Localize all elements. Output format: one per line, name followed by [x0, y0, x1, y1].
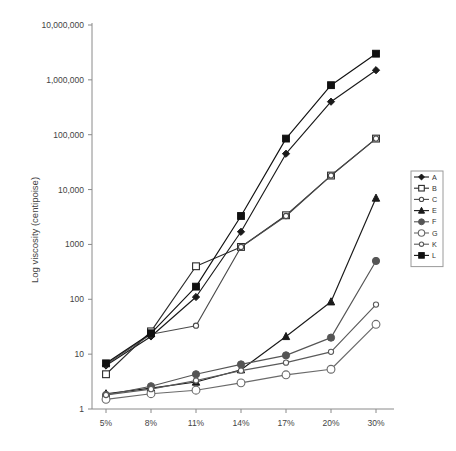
y-axis: 110100100010,000100,0001,000,00010,000,0…: [41, 20, 92, 414]
data-point-marker: [282, 371, 290, 379]
data-point-marker: [282, 332, 289, 339]
data-point-marker: [328, 349, 333, 354]
data-point-marker: [193, 283, 200, 290]
data-point-marker: [328, 82, 335, 89]
data-point-marker: [419, 197, 423, 201]
data-point-marker: [373, 50, 380, 57]
data-point-marker: [372, 257, 379, 264]
x-tick-label: 20%: [322, 418, 339, 428]
data-point-marker: [283, 135, 290, 142]
y-tick-label: 100: [70, 294, 84, 304]
data-point-marker: [419, 253, 425, 259]
x-tick-label: 11%: [188, 418, 205, 428]
data-point-marker: [419, 242, 423, 246]
series-line-F: [106, 261, 376, 395]
x-axis: 5%8%11%14%17%20%30%: [92, 409, 394, 428]
legend-label-F: F: [432, 217, 437, 226]
data-point-marker: [327, 334, 334, 341]
data-point-marker: [418, 230, 424, 236]
x-tick-label: 5%: [100, 418, 113, 428]
chart-container: 110100100010,000100,0001,000,00010,000,0…: [0, 0, 456, 451]
legend-label-L: L: [432, 251, 436, 260]
x-tick-label: 17%: [277, 418, 294, 428]
legend-label-G: G: [432, 229, 438, 238]
data-point-marker: [419, 185, 425, 191]
data-point-marker: [103, 371, 110, 378]
y-tick-label: 10: [75, 349, 85, 359]
data-point-marker: [238, 213, 245, 220]
data-point-marker: [238, 244, 243, 249]
data-point-marker: [237, 379, 245, 387]
data-point-marker: [283, 360, 288, 365]
data-point-marker: [327, 298, 334, 305]
legend-label-B: B: [432, 184, 437, 193]
series-F: [102, 257, 379, 398]
data-point-marker: [192, 371, 199, 378]
data-point-marker: [237, 361, 244, 368]
legend-label-A: A: [432, 173, 437, 182]
y-tick-label: 1,000,000: [46, 75, 84, 85]
data-point-marker: [193, 263, 200, 270]
legend-label-C: C: [432, 195, 437, 204]
data-point-marker: [192, 386, 200, 394]
data-point-marker: [237, 228, 244, 235]
legend-box: [411, 171, 443, 267]
series-layer: [102, 50, 380, 403]
data-point-marker: [327, 365, 335, 373]
y-tick-label: 10,000,000: [41, 20, 84, 30]
data-point-marker: [373, 136, 378, 141]
data-point-marker: [193, 378, 198, 383]
y-axis-title: Log viscosity (centipoise): [29, 177, 40, 283]
series-line-L: [106, 54, 376, 364]
x-tick-label: 14%: [232, 418, 249, 428]
data-point-marker: [103, 392, 108, 397]
x-tick-label: 30%: [367, 418, 384, 428]
data-point-marker: [282, 352, 289, 359]
y-tick-label: 1: [79, 404, 84, 414]
data-point-marker: [328, 173, 333, 178]
data-point-marker: [148, 330, 155, 337]
x-tick-label: 8%: [145, 418, 158, 428]
data-point-marker: [372, 194, 379, 201]
data-point-marker: [372, 67, 379, 74]
series-C: [103, 136, 378, 367]
y-tick-label: 100,000: [53, 130, 84, 140]
chart-legend: ABCEFGKL: [411, 171, 443, 267]
data-point-marker: [238, 368, 243, 373]
viscosity-line-chart: 110100100010,000100,0001,000,00010,000,0…: [0, 0, 456, 451]
data-point-marker: [419, 219, 425, 225]
data-point-marker: [372, 320, 380, 328]
data-point-marker: [103, 360, 110, 367]
data-point-marker: [148, 387, 153, 392]
legend-label-K: K: [432, 240, 437, 249]
legend-label-E: E: [432, 206, 437, 215]
data-point-marker: [193, 323, 198, 328]
y-tick-label: 10,000: [58, 185, 84, 195]
data-point-marker: [283, 213, 288, 218]
data-point-marker: [373, 302, 378, 307]
y-tick-label: 1000: [65, 239, 84, 249]
series-L: [103, 50, 380, 366]
